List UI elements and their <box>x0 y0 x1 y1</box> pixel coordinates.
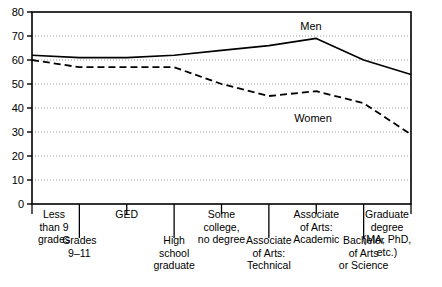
x-category-label-line: Academic <box>293 233 339 245</box>
x-category-label-line: High <box>163 234 185 246</box>
women-label: Women <box>294 112 332 124</box>
x-category-label-line: of Arts <box>349 247 379 259</box>
line-chart: 80706050403020100 Lessthan 9gradesGrades… <box>0 0 442 287</box>
x-category-label-line: Technical <box>247 259 291 271</box>
x-category-label-line: Graduate <box>365 208 409 220</box>
y-tick-label: 20 <box>12 150 24 162</box>
men-label: Men <box>300 20 321 32</box>
x-category-label-line: degree <box>371 221 404 233</box>
x-category-label-line: Associate <box>246 234 292 246</box>
x-category-label-line: school <box>159 247 189 259</box>
x-category-label-line: Associate <box>293 208 339 220</box>
y-tick-label: 30 <box>12 126 24 138</box>
chart-figure: 80706050403020100 Lessthan 9gradesGrades… <box>0 0 442 287</box>
y-tick-label: 50 <box>12 78 24 90</box>
y-tick-label: 70 <box>12 30 24 42</box>
y-tick-label: 10 <box>12 174 24 186</box>
y-tick-label: 60 <box>12 54 24 66</box>
x-category-label-line: graduate <box>153 259 195 271</box>
x-category-label-line: no degree <box>198 233 245 245</box>
x-category-label-line: GED <box>115 208 138 220</box>
x-category-label-line: etc.) <box>377 246 397 258</box>
x-category-label-line: Some <box>208 208 236 220</box>
y-tick-label: 40 <box>12 102 24 114</box>
x-category-label-line: or Science <box>339 259 389 271</box>
x-category-label-line: than 9 <box>39 221 68 233</box>
y-tick-label: 80 <box>12 6 24 18</box>
x-category-label-line: Less <box>43 208 65 220</box>
x-category-label: Associateof Arts:Technical <box>246 234 292 271</box>
x-category-label-line: of Arts: <box>253 247 286 259</box>
x-category-label-line: of Arts: <box>300 221 333 233</box>
x-category-label-line: Grades <box>62 234 96 246</box>
x-category-label: Associateof Arts:Academic <box>293 208 339 245</box>
x-category-label-line: 9–11 <box>68 247 91 259</box>
x-category-label: GED <box>115 208 138 220</box>
y-tick-label: 0 <box>18 198 24 210</box>
x-category-label-line: college, <box>203 221 239 233</box>
y-tick-labels: 80706050403020100 <box>12 6 24 210</box>
x-category-label-line: (MA, PhD, <box>363 233 411 245</box>
